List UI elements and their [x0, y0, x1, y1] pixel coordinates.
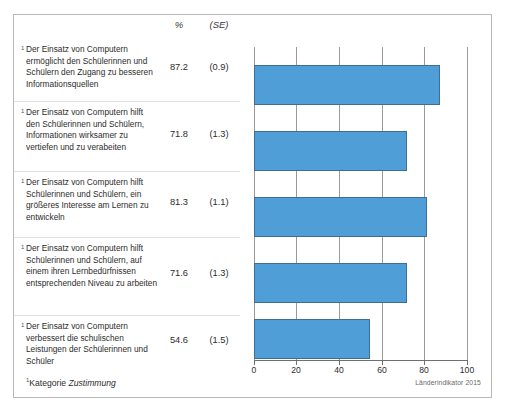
- row-label: 1 Der Einsatz von Computern ermöglicht d…: [26, 39, 158, 90]
- row-se-value: (1.1): [200, 197, 238, 207]
- plot-area: [254, 47, 468, 361]
- table-row: 1 Der Einsatz von Computern hilft Schüle…: [14, 171, 240, 237]
- row-label: 1 Der Einsatz von Computern verbessert d…: [26, 316, 158, 367]
- bar-informationsquellen: [254, 65, 440, 105]
- x-tick-label-0: 0: [234, 365, 274, 375]
- footnote-marker: 1: [21, 106, 24, 116]
- footer-divider: [14, 371, 491, 372]
- statement-table: 1 Der Einsatz von Computern ermöglicht d…: [14, 39, 240, 369]
- footnote-category: Zustimmung: [69, 378, 116, 388]
- bar-chart: 0 20 40 60 80 100: [242, 39, 485, 385]
- x-tick-label-80: 80: [404, 365, 444, 375]
- x-tick-label-20: 20: [276, 365, 316, 375]
- row-label-text: Der Einsatz von Computern hilft Schüleri…: [26, 243, 157, 288]
- column-header-percent: %: [162, 19, 196, 30]
- x-axis-line: [254, 360, 468, 361]
- row-label-text: Der Einsatz von Computern verbessert die…: [26, 321, 148, 366]
- bar-leistungen: [254, 319, 370, 359]
- table-row: 1 Der Einsatz von Computern verbessert d…: [14, 315, 240, 369]
- row-label-text: Der Einsatz von Computern hilft Schüleri…: [26, 177, 149, 222]
- x-tick-label-40: 40: [319, 365, 359, 375]
- x-tick-label-60: 60: [362, 365, 402, 375]
- gridline-100: [467, 47, 468, 361]
- column-header-se: (SE): [200, 19, 238, 30]
- row-se-value: (0.9): [200, 62, 238, 72]
- table-row: 1 Der Einsatz von Computern hilft Schüle…: [14, 237, 240, 315]
- row-percent-value: 54.6: [162, 335, 196, 345]
- row-se-value: (1.5): [200, 335, 238, 345]
- footnote-prefix: Kategorie: [29, 378, 68, 388]
- row-label-text: Der Einsatz von Computern hilft den Schü…: [26, 107, 144, 152]
- row-se-value: (1.3): [200, 129, 238, 139]
- row-percent-value: 71.6: [162, 268, 196, 278]
- footnote-marker: 1: [21, 320, 24, 330]
- bar-vertiefen: [254, 131, 407, 171]
- table-header: % (SE): [14, 19, 491, 41]
- row-label: 1 Der Einsatz von Computern hilft Schüle…: [26, 238, 158, 289]
- row-percent-value: 81.3: [162, 197, 196, 207]
- row-se-value: (1.3): [200, 268, 238, 278]
- x-tick-label-100: 100: [447, 365, 487, 375]
- footnote: 1Kategorie Zustimmung: [26, 377, 116, 388]
- x-axis-tick-labels: 0 20 40 60 80 100: [254, 365, 468, 379]
- row-label: 1 Der Einsatz von Computern hilft Schüle…: [26, 172, 158, 223]
- footnote-marker: 1: [21, 43, 24, 53]
- row-percent-value: 71.8: [162, 129, 196, 139]
- row-label: 1 Der Einsatz von Computern hilft den Sc…: [26, 102, 158, 153]
- row-label-text: Der Einsatz von Computern ermöglicht den…: [26, 44, 153, 89]
- table-row: 1 Der Einsatz von Computern ermöglicht d…: [14, 39, 240, 101]
- source-note: Länderindikator 2015: [415, 379, 481, 386]
- row-percent-value: 87.2: [162, 62, 196, 72]
- footnote-marker: 1: [21, 176, 24, 186]
- bar-niveau: [254, 263, 407, 303]
- figure-container: % (SE) 1 Der Einsatz von Computern ermög…: [13, 14, 492, 398]
- footnote-marker: 1: [21, 242, 24, 252]
- bar-interesse: [254, 197, 427, 237]
- table-row: 1 Der Einsatz von Computern hilft den Sc…: [14, 101, 240, 171]
